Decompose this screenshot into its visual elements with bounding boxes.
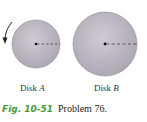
disk-a-label: Disk A bbox=[20, 83, 45, 93]
disk-b bbox=[73, 12, 137, 76]
figure-number: Fig. 10-51 bbox=[2, 104, 53, 114]
disk-b-label-letter: B bbox=[113, 83, 119, 93]
disk-b-center-dot bbox=[104, 43, 107, 46]
disk-a-label-prefix: Disk bbox=[20, 83, 37, 93]
figure-caption: Fig. 10-51Problem 76. bbox=[2, 98, 107, 116]
disk-b-label: Disk B bbox=[94, 83, 119, 93]
disk-b-label-prefix: Disk bbox=[94, 83, 111, 93]
disks-diagram bbox=[0, 0, 147, 95]
disk-a-center-dot bbox=[35, 43, 38, 46]
disk-a-label-letter: A bbox=[39, 83, 45, 93]
disk-a bbox=[12, 20, 60, 68]
problem-reference: Problem 76. bbox=[58, 103, 107, 114]
counterclockwise-arrow-icon bbox=[3, 22, 13, 44]
